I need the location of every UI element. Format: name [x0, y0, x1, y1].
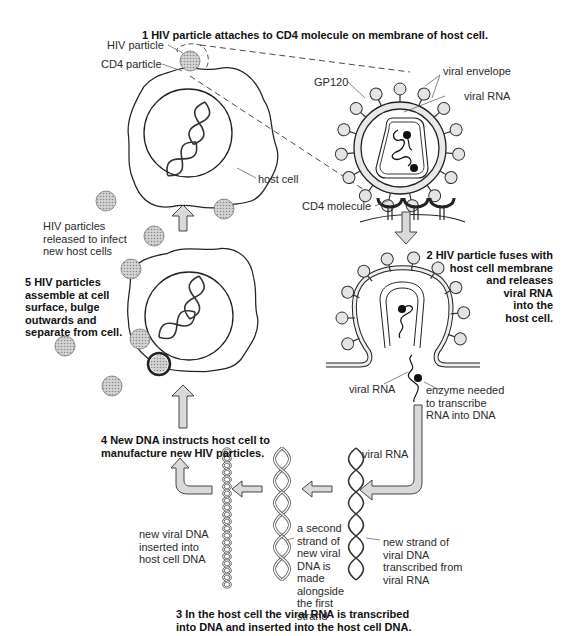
label-new-strand: new strand of viral DNA transcribed from…: [383, 536, 462, 586]
label-second-strand: a second strand of new viral DNA is made…: [297, 522, 344, 622]
label-particles-released: HIV particles released to infect new hos…: [43, 220, 127, 258]
label-inserted-dna: new viral DNA inserted into host cell DN…: [139, 528, 209, 566]
step-3-caption: 3 In the host cell the viral RNA is tran…: [176, 608, 412, 633]
arrow-3a: [302, 481, 332, 497]
label-viral-rna-virion: viral RNA: [464, 90, 510, 103]
dna-inserted-helix: [223, 448, 231, 588]
hiv-particle-attached: [180, 51, 200, 71]
arrow-3b: [232, 481, 262, 497]
label-viral-rna-strand: viral RNA: [362, 448, 408, 461]
step-2-caption: 2 HIV particle fuses with host cell memb…: [414, 249, 553, 324]
arrow-4-to-5: [172, 385, 194, 428]
label-gp120: GP120: [314, 76, 348, 89]
label-hiv-particle: HIV particle: [107, 39, 164, 52]
label-viral-rna-fusion: viral RNA: [349, 383, 395, 396]
rna-dna-helix: [349, 448, 364, 580]
label-enzyme: enzyme needed to transcribe RNA into DNA: [426, 384, 504, 422]
label-host-cell: host cell: [258, 173, 298, 186]
host-cell-bottom: [121, 250, 256, 375]
host-cell-top: [130, 69, 276, 206]
arrow-5-to-1: [172, 205, 194, 231]
label-cd4-particle: CD4 particle: [101, 58, 162, 71]
dna-double-helix: [275, 448, 290, 580]
step-1-caption: 1 HIV particle attaches to CD4 molecule …: [142, 29, 488, 42]
step-4-caption: 4 New DNA instructs host cell to manufac…: [101, 434, 270, 459]
label-viral-envelope: viral envelope: [443, 65, 511, 78]
arrow-3-to-4: [171, 458, 212, 494]
step-5-caption: 5 HIV particles assemble at cell surface…: [25, 276, 122, 339]
label-cd4-molecule: CD4 molecule: [302, 200, 371, 213]
